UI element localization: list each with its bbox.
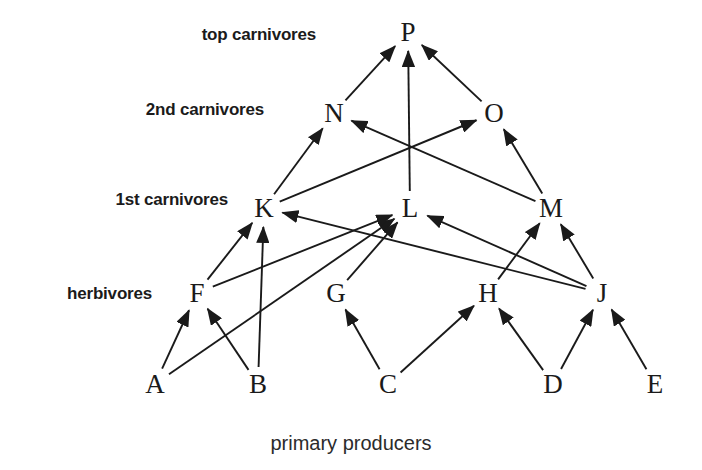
trophic-label-first-carnivores: 1st carnivores — [116, 190, 229, 210]
node-L: L — [402, 195, 419, 222]
edge-K-to-N — [274, 128, 323, 194]
edge-D-to-J — [561, 310, 593, 369]
trophic-label-top-carnivores: top carnivores — [202, 25, 316, 45]
edge-A-to-F — [162, 310, 189, 368]
edge-L-to-P — [408, 51, 410, 191]
edge-B-to-K — [259, 227, 264, 367]
edge-O-to-P — [422, 45, 482, 101]
edge-E-to-J — [612, 309, 647, 369]
node-E: E — [647, 371, 664, 398]
edge-H-to-M — [498, 223, 540, 279]
node-N: N — [324, 100, 344, 127]
edge-M-to-O — [504, 129, 542, 193]
node-G: G — [326, 280, 346, 307]
edge-J-to-M — [561, 224, 593, 278]
node-J: J — [597, 280, 608, 307]
node-F: F — [189, 280, 204, 307]
node-C: C — [379, 371, 397, 398]
node-D: D — [543, 371, 563, 398]
edge-C-to-G — [345, 310, 379, 370]
edge-B-to-F — [208, 309, 249, 370]
edge-C-to-H — [401, 306, 474, 373]
edge-F-to-K — [208, 223, 253, 280]
primary-producers-caption: primary producers — [270, 432, 431, 455]
trophic-label-herbivores: herbivores — [67, 284, 152, 304]
node-H: H — [478, 280, 498, 307]
node-B: B — [249, 371, 267, 398]
node-K: K — [254, 195, 274, 222]
food-web-diagram: top carnivores2nd carnivores1st carnivor… — [0, 0, 702, 470]
node-M: M — [539, 195, 563, 222]
node-P: P — [400, 19, 415, 46]
food-web-arrows-layer — [0, 0, 702, 470]
edge-F-to-L — [213, 215, 393, 287]
node-O: O — [484, 100, 504, 127]
edge-N-to-P — [345, 46, 395, 100]
node-A: A — [145, 371, 165, 398]
edge-D-to-H — [499, 308, 543, 370]
trophic-label-second-carnivores: 2nd carnivores — [146, 100, 264, 120]
